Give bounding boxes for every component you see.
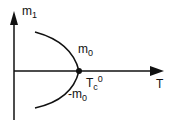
upper-branch-label-main: m: [78, 42, 88, 56]
y-axis-label-sub: 1: [32, 10, 37, 20]
critical-temperature-label-sup: 0: [98, 74, 103, 84]
x-axis-label: T: [156, 78, 163, 90]
lower-branch-label-main: -m: [68, 87, 82, 101]
critical-point-dot: [76, 68, 82, 74]
upper-branch-label-sub: 0: [88, 48, 93, 58]
critical-temperature-label: Tc0: [86, 77, 103, 89]
y-axis-label-main: m: [22, 4, 32, 18]
x-axis-label-text: T: [156, 77, 163, 91]
y-axis-label: m1: [22, 5, 37, 17]
lower-branch-label: -m0: [68, 88, 87, 100]
y-axis-arrow-icon: [10, 11, 18, 25]
phase-diagram: [0, 0, 173, 127]
x-axis-arrow-icon: [150, 66, 164, 76]
upper-branch-label: m0: [78, 43, 93, 55]
lower-branch-label-sub: 0: [82, 93, 87, 103]
